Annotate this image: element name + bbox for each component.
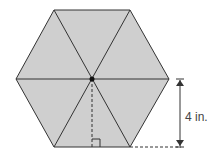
apothem-label: 4 in. [185, 110, 208, 124]
center-dot [90, 77, 95, 82]
hexagon-diagram: 4 in. [0, 0, 218, 155]
dimension-arrow [176, 79, 184, 147]
